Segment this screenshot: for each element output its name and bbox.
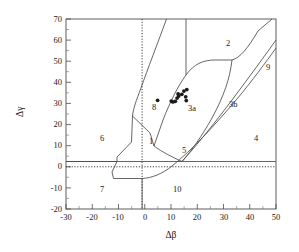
phase-diagram-figure: 70 60 50 40 30 20 10 0 -10 -20 -30 -20 -…	[0, 0, 299, 252]
boundary-curve-lower-left	[112, 162, 142, 179]
data-point	[176, 92, 180, 96]
data-point	[156, 98, 160, 102]
ytick-label-70: 70	[42, 15, 62, 24]
ytick-label-60: 60	[42, 36, 62, 45]
boundary-curve-left-mid	[117, 116, 133, 162]
boundary-curve-region3a-left	[154, 75, 186, 146]
data-point	[184, 95, 188, 99]
ytick-label-0: 0	[42, 162, 62, 171]
region-label-10: 10	[173, 185, 182, 194]
boundary-curve-region5-right	[154, 146, 182, 162]
region-label-3b: 3b	[229, 100, 238, 109]
ytick-label-10: 10	[42, 141, 62, 150]
region-label-6: 6	[100, 134, 104, 143]
region-label-7: 7	[100, 185, 104, 194]
region-label-8: 8	[152, 103, 156, 112]
x-axis-title: Δβ	[156, 231, 186, 241]
ytick-label-40: 40	[42, 78, 62, 87]
xtick-label-40: 40	[238, 213, 262, 222]
xtick-label-50: 50	[264, 213, 288, 222]
xtick-label-neg30: -30	[54, 213, 78, 222]
data-point	[184, 99, 188, 103]
xtick-label-neg10: -10	[106, 213, 130, 222]
ytick-label-20: 20	[42, 120, 62, 129]
ytick-label-50: 50	[42, 57, 62, 66]
region-label-9: 9	[266, 63, 270, 72]
ytick-label-30: 30	[42, 99, 62, 108]
axis-frame	[66, 19, 276, 209]
data-point	[180, 92, 184, 96]
data-point-group	[156, 88, 189, 104]
region-label-5: 5	[182, 146, 186, 155]
plot-border	[66, 19, 276, 209]
xtick-label-neg20: -20	[80, 213, 104, 222]
data-point	[185, 88, 189, 92]
region-label-4: 4	[254, 134, 258, 143]
y-axis-title: Δγ	[16, 97, 26, 127]
xtick-label-20: 20	[185, 213, 209, 222]
xtick-label-30: 30	[212, 213, 236, 222]
xtick-label-0: 0	[133, 213, 157, 222]
region-label-3a: 3a	[188, 104, 196, 113]
data-point	[173, 99, 177, 103]
boundary-curve-left-upper	[133, 19, 167, 116]
x-axis-ticks	[66, 204, 276, 209]
xtick-label-10: 10	[159, 213, 183, 222]
region-label-1: 1	[149, 137, 153, 146]
phase-boundary-curves	[66, 19, 276, 209]
region-label-2: 2	[226, 39, 230, 48]
boundary-curve-region3a-top	[186, 60, 232, 75]
ytick-label-neg10: -10	[40, 184, 62, 193]
